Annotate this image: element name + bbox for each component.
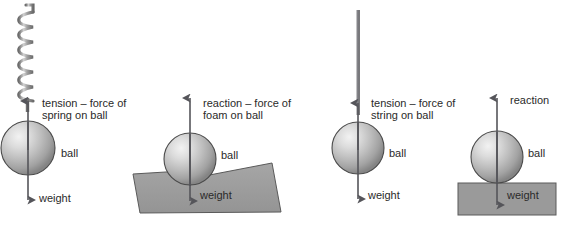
reaction-label-line1: reaction – force of: [203, 97, 292, 109]
diagram-canvas: tension – force of spring on ball ball w…: [0, 0, 564, 225]
ball-label: ball: [61, 147, 78, 159]
tension-label-line2: string on ball: [371, 109, 433, 121]
tension-label-line2: spring on ball: [42, 109, 107, 121]
weight-label: weight: [38, 192, 71, 204]
tension-label-line1: tension – force of: [42, 97, 127, 109]
ball-label: ball: [528, 147, 545, 159]
reaction-label-line2: foam on ball: [203, 109, 263, 121]
physics-force-diagram: tension – force of spring on ball ball w…: [0, 0, 564, 225]
weight-label: weight: [199, 189, 232, 201]
weight-label: weight: [367, 189, 400, 201]
reaction-label: reaction: [510, 94, 549, 106]
weight-label: weight: [506, 189, 539, 201]
tension-label-line1: tension – force of: [371, 97, 456, 109]
ball-label: ball: [221, 149, 238, 161]
ball-label: ball: [389, 147, 406, 159]
string-shape: [357, 10, 360, 115]
